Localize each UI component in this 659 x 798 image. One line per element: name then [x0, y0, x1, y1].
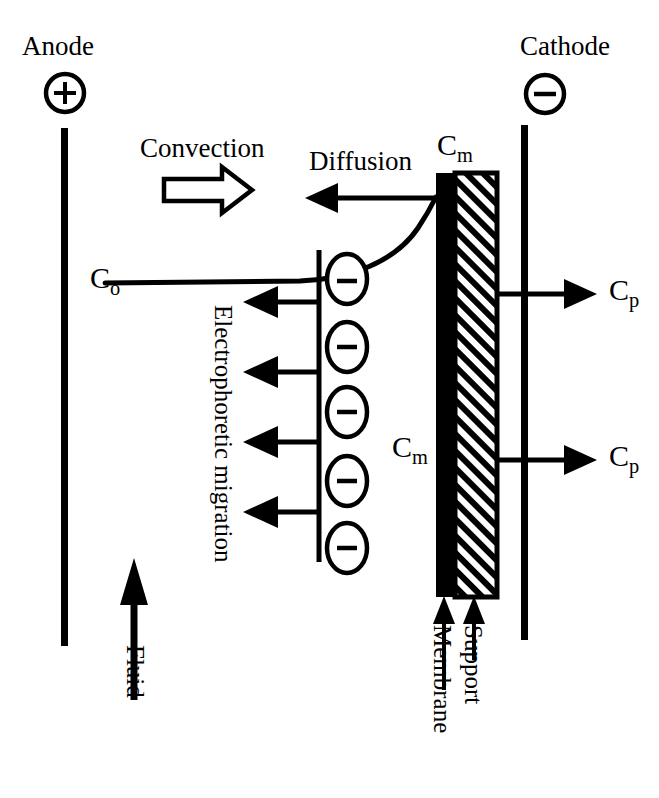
diagram-canvas [0, 0, 659, 798]
permeate-concentration-top-subscript: p [629, 289, 639, 311]
membrane-label: Membrane [430, 625, 455, 733]
membrane-concentration-lower-label: Cm [392, 432, 428, 467]
electrofiltration-diagram: Anode Cathode Convection Diffusion Elect… [0, 0, 659, 798]
circled-minus-particle [327, 387, 367, 437]
fluid-label: Fluid [123, 645, 148, 698]
circled-minus-particle [327, 456, 367, 506]
circled-minus-particle [327, 254, 367, 304]
concentration-profile-curve [105, 197, 436, 283]
circled-minus-particle [327, 523, 367, 573]
permeate-arrow-bottom [497, 445, 597, 475]
membrane-concentration-lower-subscript: m [412, 446, 428, 468]
circled-minus-icon [526, 75, 564, 113]
diffusion-arrow-icon [305, 183, 436, 213]
permeate-arrow-top [497, 279, 597, 309]
membrane-layer [436, 173, 455, 597]
membrane-concentration-top-label: Cm [437, 130, 473, 165]
membrane-concentration-top-base: C [437, 128, 457, 161]
electrophoretic-migration-arrow-2 [243, 356, 319, 388]
permeate-concentration-top-base: C [609, 273, 629, 306]
bulk-concentration-base: C [90, 261, 110, 294]
support-layer [455, 173, 497, 597]
circled-minus-particle [327, 322, 367, 372]
electrophoretic-migration-arrow-3 [243, 426, 319, 458]
convection-label: Convection [140, 135, 264, 162]
anode-label: Anode [22, 33, 94, 60]
electrophoretic-migration-arrow-4 [243, 496, 319, 528]
anode-electrode-bar [61, 128, 68, 646]
membrane-concentration-lower-base: C [392, 430, 412, 463]
cathode-label: Cathode [520, 33, 610, 60]
membrane-concentration-top-subscript: m [457, 144, 473, 166]
diffusion-label: Diffusion [309, 148, 412, 175]
cathode-electrode-bar [521, 125, 528, 640]
electrophoretic-migration-label: Electrophoretic migration [211, 305, 236, 563]
permeate-concentration-bottom-subscript: p [629, 455, 639, 477]
circled-plus-icon [46, 74, 84, 112]
bulk-concentration-subscript: o [110, 277, 120, 299]
bulk-concentration-label: Co [90, 263, 120, 298]
permeate-concentration-bottom-base: C [609, 439, 629, 472]
electrophoretic-migration-arrow-1 [243, 286, 319, 318]
permeate-concentration-top-label: Cp [609, 275, 639, 310]
permeate-concentration-bottom-label: Cp [609, 441, 639, 476]
support-label: Support [461, 625, 486, 704]
convection-arrow-icon [164, 167, 252, 213]
